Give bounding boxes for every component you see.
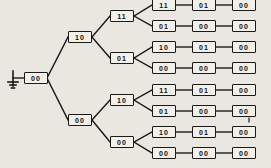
node-root-label: 00 <box>31 74 41 81</box>
node-r4-c2[interactable]: 00 <box>192 62 216 74</box>
node-r8-c2-label: 00 <box>199 149 209 156</box>
node-r1-c2-label: 01 <box>199 1 209 8</box>
edge-l3d-down <box>134 142 152 153</box>
node-l3-3[interactable]: 00 <box>110 136 134 148</box>
node-l3-0[interactable]: 11 <box>110 10 134 22</box>
diagram-canvas: 00 10 00 11 01 10 00 11 01 00 01 00 00 1… <box>0 0 271 168</box>
node-r2-c1-label: 01 <box>159 22 169 29</box>
node-r7-c2-label: 01 <box>199 128 209 135</box>
node-r4-c1-label: 00 <box>159 64 169 71</box>
node-r4-c2-label: 00 <box>199 64 209 71</box>
edge-l3c-down <box>134 100 152 111</box>
node-r5-c2-label: 01 <box>199 86 209 93</box>
node-r6-c1-label: 01 <box>159 107 169 114</box>
node-r6-c3-label: 00 <box>239 107 249 114</box>
node-r6-c2[interactable]: 00 <box>192 105 216 117</box>
node-r8-c1[interactable]: 00 <box>152 147 176 159</box>
node-l2-1-label: 00 <box>75 116 85 123</box>
node-r5-c2[interactable]: 01 <box>192 84 216 96</box>
edge-l3a-down <box>134 16 152 26</box>
node-r7-c3-label: 00 <box>239 128 249 135</box>
node-r3-c2[interactable]: 01 <box>192 41 216 53</box>
edge-l3d-up <box>134 132 152 142</box>
node-r7-c3[interactable]: 00 <box>232 126 256 138</box>
node-l3-3-label: 00 <box>117 138 127 145</box>
node-r2-c2-label: 00 <box>199 22 209 29</box>
node-r4-c3[interactable]: 00 <box>232 62 256 74</box>
node-l2-1[interactable]: 00 <box>68 114 92 126</box>
node-r6-c1[interactable]: 01 <box>152 105 176 117</box>
node-r8-c2[interactable]: 00 <box>192 147 216 159</box>
node-r5-c1-label: 11 <box>159 86 168 93</box>
edge-l3c-up <box>134 90 152 100</box>
node-r7-c1[interactable]: 10 <box>152 126 176 138</box>
node-l3-1-label: 01 <box>117 54 127 61</box>
node-r1-c2[interactable]: 01 <box>192 0 216 11</box>
edge-root-up <box>47 37 68 78</box>
node-r5-c1[interactable]: 11 <box>152 84 176 96</box>
node-r2-c3[interactable]: 00 <box>232 20 256 32</box>
edge-l3b-up <box>134 47 152 58</box>
edge-l2a-up <box>92 16 110 37</box>
node-r4-c1[interactable]: 00 <box>152 62 176 74</box>
node-r6-c3[interactable]: 00 <box>232 105 256 117</box>
node-r7-c2[interactable]: 01 <box>192 126 216 138</box>
node-l2-0[interactable]: 10 <box>68 31 92 43</box>
node-r5-c3-label: 00 <box>239 86 249 93</box>
node-r8-c3[interactable]: 00 <box>232 147 256 159</box>
edge-l2b-up <box>92 100 110 120</box>
edge-l2b-down <box>92 120 110 142</box>
node-r5-c3[interactable]: 00 <box>232 84 256 96</box>
node-r8-c1-label: 00 <box>159 149 169 156</box>
node-l3-2-label: 10 <box>117 96 127 103</box>
node-r3-c3[interactable]: 00 <box>232 41 256 53</box>
node-r4-c3-label: 00 <box>239 64 249 71</box>
connection-lines <box>0 0 271 168</box>
node-l3-1[interactable]: 01 <box>110 52 134 64</box>
node-l3-2[interactable]: 10 <box>110 94 134 106</box>
node-r2-c3-label: 00 <box>239 22 249 29</box>
node-r2-c2[interactable]: 00 <box>192 20 216 32</box>
edge-l3a-up <box>134 5 152 16</box>
node-r1-c1[interactable]: 11 <box>152 0 176 11</box>
node-r1-c3-label: 00 <box>239 1 249 8</box>
node-r6-c2-label: 00 <box>199 107 209 114</box>
node-l2-0-label: 10 <box>75 33 85 40</box>
node-r2-c1[interactable]: 01 <box>152 20 176 32</box>
edge-l3b-down <box>134 58 152 68</box>
node-r3-c3-label: 00 <box>239 43 249 50</box>
edge-root-down <box>47 78 68 120</box>
node-r1-c3[interactable]: 00 <box>232 0 256 11</box>
edge-l2a-down <box>92 37 110 58</box>
node-r8-c3-label: 00 <box>239 149 249 156</box>
node-root[interactable]: 00 <box>24 72 48 84</box>
node-r3-c1[interactable]: 10 <box>152 41 176 53</box>
node-r3-c2-label: 01 <box>199 43 209 50</box>
node-l3-0-label: 11 <box>117 12 126 19</box>
node-r1-c1-label: 11 <box>159 1 168 8</box>
node-r7-c1-label: 10 <box>159 128 169 135</box>
node-r3-c1-label: 10 <box>159 43 169 50</box>
